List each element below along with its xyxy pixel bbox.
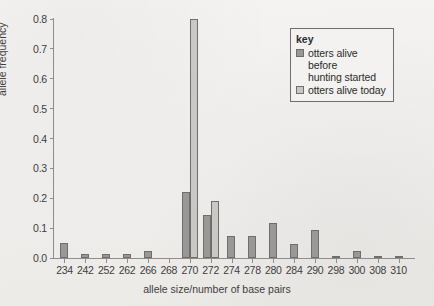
y-tick-0.2: 0.2 (33, 192, 54, 204)
x-tick-mark-278 (252, 259, 253, 263)
x-tick-label-270: 270 (181, 264, 198, 276)
x-tick-mark-300 (357, 259, 358, 263)
bar-270-series-0 (182, 192, 190, 258)
bar-310-series-0 (395, 256, 403, 258)
y-axis-title: allele frequency (0, 22, 8, 96)
x-tick-mark-308 (378, 259, 379, 263)
x-tick-mark-284 (294, 259, 295, 263)
y-tick-0.4: 0.4 (33, 133, 54, 145)
bar-234-series-0 (60, 243, 68, 258)
x-tick-mark-280 (273, 259, 274, 263)
legend-entry-0: otters alive beforehunting started (296, 47, 388, 83)
x-tick-label-300: 300 (348, 264, 365, 276)
y-tick-label: 0.5 (33, 103, 47, 115)
bar-group-272 (200, 19, 221, 258)
bar-group-270 (179, 19, 200, 258)
x-tick-label-262: 262 (119, 264, 136, 276)
bar-274-series-0 (227, 236, 235, 258)
legend-title: key (296, 33, 388, 45)
bar-group-268 (158, 19, 179, 258)
bar-290-series-0 (311, 230, 319, 258)
x-tick-mark-234 (64, 259, 65, 263)
bar-270-series-1 (190, 19, 198, 258)
y-tick-label: 0.7 (33, 43, 47, 55)
x-tick-mark-270 (190, 259, 191, 263)
x-tick-label-268: 268 (161, 264, 178, 276)
x-tick-mark-266 (148, 259, 149, 263)
bar-280-series-0 (269, 223, 277, 258)
legend-swatch-1 (296, 86, 304, 94)
bar-group-252 (96, 19, 117, 258)
x-tick-label-280: 280 (265, 264, 282, 276)
x-tick-mark-290 (315, 259, 316, 263)
y-tick-label: 0.3 (33, 162, 47, 174)
bar-242-series-0 (81, 254, 89, 258)
x-tick-label-234: 234 (56, 264, 73, 276)
bar-252-series-0 (102, 254, 110, 258)
legend-swatch-0 (296, 49, 304, 57)
x-tick-label-298: 298 (328, 264, 345, 276)
y-tick-0.0: 0.0 (33, 252, 54, 264)
x-tick-mark-310 (399, 259, 400, 263)
x-tick-mark-274 (232, 259, 233, 263)
x-tick-label-278: 278 (244, 264, 261, 276)
legend-label-0: otters alive beforehunting started (308, 47, 388, 83)
legend-label-1: otters alive today (308, 84, 386, 96)
bar-group-266 (138, 19, 159, 258)
bar-group-262 (117, 19, 138, 258)
x-tick-mark-242 (85, 259, 86, 263)
x-tick-label-252: 252 (98, 264, 115, 276)
y-tick-0.8: 0.8 (33, 13, 54, 25)
bar-278-series-0 (248, 236, 256, 258)
bar-262-series-0 (123, 254, 131, 258)
x-axis-line (53, 258, 415, 259)
y-tick-label: 0.8 (33, 13, 47, 25)
x-tick-label-242: 242 (77, 264, 94, 276)
x-tick-label-310: 310 (390, 264, 407, 276)
x-tick-mark-252 (106, 259, 107, 263)
x-tick-label-290: 290 (307, 264, 324, 276)
y-tick-label: 0.2 (33, 192, 47, 204)
y-tick-0.5: 0.5 (33, 103, 54, 115)
y-tick-0.7: 0.7 (33, 43, 54, 55)
bar-284-series-0 (290, 244, 298, 258)
bar-group-234 (54, 19, 75, 258)
bar-300-series-0 (353, 251, 361, 258)
x-tick-label-266: 266 (140, 264, 157, 276)
x-tick-mark-262 (127, 259, 128, 263)
legend: key otters alive beforehunting startedot… (290, 28, 394, 102)
x-tick-label-308: 308 (369, 264, 386, 276)
y-tick-0.3: 0.3 (33, 162, 54, 174)
y-tick-label: 0.6 (33, 73, 47, 85)
legend-entry-1: otters alive today (296, 84, 388, 96)
x-tick-label-284: 284 (286, 264, 303, 276)
bar-group-280 (263, 19, 284, 258)
y-tick-label: 0.4 (33, 133, 47, 145)
x-tick-mark-268 (169, 259, 170, 263)
x-axis-title: allele size/number of base pairs (0, 283, 434, 295)
y-tick-0.6: 0.6 (33, 73, 54, 85)
x-tick-label-272: 272 (202, 264, 219, 276)
y-tick-label: 0.1 (33, 222, 47, 234)
bar-272-series-0 (203, 215, 211, 258)
bar-group-278 (242, 19, 263, 258)
bar-308-series-0 (374, 256, 382, 258)
bar-272-series-1 (211, 201, 219, 258)
bar-group-274 (221, 19, 242, 258)
bar-group-242 (75, 19, 96, 258)
x-tick-mark-298 (336, 259, 337, 263)
bar-298-series-0 (332, 256, 340, 258)
bar-266-series-0 (144, 251, 152, 258)
allele-frequency-bar-chart: 0.00.10.20.30.40.50.60.70.8 allele frequ… (0, 0, 434, 306)
y-tick-label: 0.0 (33, 252, 47, 264)
x-tick-label-274: 274 (223, 264, 240, 276)
y-tick-0.1: 0.1 (33, 222, 54, 234)
legend-entries: otters alive beforehunting startedotters… (296, 47, 388, 96)
x-tick-mark-272 (211, 259, 212, 263)
